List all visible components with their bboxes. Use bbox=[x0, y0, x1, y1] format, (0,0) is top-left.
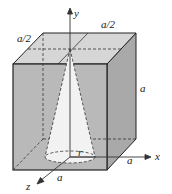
label-radius: r bbox=[78, 146, 83, 158]
cube-cone-diagram: y a/2 a/2 a r a x a z bbox=[0, 0, 172, 194]
label-z-axis: z bbox=[25, 180, 31, 192]
label-x-axis: x bbox=[154, 150, 160, 162]
label-z-edge: a bbox=[57, 171, 63, 183]
label-top-back-edge: a/2 bbox=[101, 18, 116, 30]
label-y-axis: y bbox=[73, 7, 79, 19]
label-right-edge: a bbox=[140, 82, 146, 94]
label-x-edge: a bbox=[127, 154, 133, 166]
diagram-canvas: y a/2 a/2 a r a x a z bbox=[0, 0, 172, 194]
label-top-left-edge: a/2 bbox=[17, 32, 32, 44]
